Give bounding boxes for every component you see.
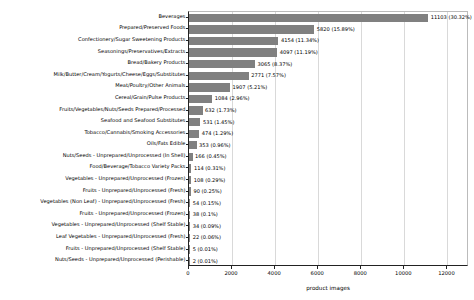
bar-row: 1084 (2.96%)	[189, 93, 250, 105]
x-tick-label: 4000	[268, 270, 281, 276]
x-tick-label: 6000	[311, 270, 324, 276]
bar	[189, 118, 200, 126]
category-label: Vegetables (Non Leaf) - Unprepared/Unpro…	[2, 199, 188, 204]
category-label: Vegetables - Unprepared/Unprocessed (She…	[2, 222, 188, 227]
bar-row: 474 (1.29%)	[189, 128, 233, 140]
bar	[189, 234, 190, 242]
x-tick-mark	[403, 266, 404, 269]
bar-value-label: 54 (0.15%)	[193, 201, 221, 206]
category-label: Tobacco/Cannabis/Smoking Accessories	[2, 130, 188, 135]
bar-row: 90 (0.25%)	[189, 186, 222, 198]
bar-value-label: 474 (1.29%)	[202, 131, 234, 136]
x-axis-ticks: 020004000600080001000012000	[188, 266, 468, 280]
x-tick-mark	[317, 266, 318, 269]
bar-row: 4097 (11.19%)	[189, 47, 318, 59]
bar-value-label: 353 (0.96%)	[199, 143, 231, 148]
bar-row: 531 (1.45%)	[189, 116, 234, 128]
category-label: Cereal/Grain/Pulse Products	[2, 95, 188, 100]
category-label: Fruits - Unprepared/Unprocessed (Frozen)	[2, 211, 188, 216]
category-label: Confectionery/Sugar Sweetening Products	[2, 37, 188, 42]
bar-row: 4154 (11.34%)	[189, 35, 319, 47]
plot-area: 11103 (30.32%)5820 (15.89%)4154 (11.34%)…	[188, 11, 468, 266]
bar	[189, 153, 193, 161]
bar	[189, 25, 314, 33]
bar	[189, 199, 190, 207]
bar-value-label: 108 (0.29%)	[194, 178, 226, 183]
bar	[189, 222, 190, 230]
bar-row: 54 (0.15%)	[189, 197, 221, 209]
bar-value-label: 2 (0.01%)	[193, 259, 218, 264]
bar-value-label: 11103 (30.32%)	[431, 15, 472, 20]
bar-value-label: 2771 (7.57%)	[251, 73, 286, 78]
category-label: Prepared/Preserved Foods	[2, 25, 188, 30]
bar-value-label: 4097 (11.19%)	[280, 50, 318, 55]
bar-value-label: 4154 (11.34%)	[281, 38, 319, 43]
bar-value-label: 632 (1.73%)	[205, 108, 237, 113]
category-label: Meat/Poultry/Other Animals	[2, 83, 188, 88]
bar-row: 353 (0.96%)	[189, 139, 231, 151]
bar-row: 1907 (5.21%)	[189, 81, 267, 93]
category-label: Milk/Butter/Cream/Yogurts/Cheese/Eggs/Su…	[2, 72, 188, 77]
category-label: Nuts/Seeds - Unprepared/Unprocessed (In …	[2, 153, 188, 158]
x-tick-mark	[446, 266, 447, 269]
bar-row: 2771 (7.57%)	[189, 70, 286, 82]
bar	[189, 130, 199, 138]
bar-value-label: 531 (1.45%)	[203, 120, 235, 125]
bar	[189, 187, 191, 195]
bar-value-label: 114 (0.31%)	[194, 166, 226, 171]
category-label: Oils/Fats Edible	[2, 141, 188, 146]
bar-value-label: 1907 (5.21%)	[233, 85, 268, 90]
category-label: Seafood and Seafood Substitutes	[2, 118, 188, 123]
bar-row: 38 (0.1%)	[189, 209, 218, 221]
bar	[189, 95, 212, 103]
category-label: Seasonings/Preservatives/Extracts	[2, 49, 188, 54]
bar-row: 5820 (15.89%)	[189, 23, 355, 35]
x-tick-mark	[231, 266, 232, 269]
x-tick-label: 0	[186, 270, 189, 276]
category-label: Fruits - Unprepared/Unprocessed (Fresh)	[2, 188, 188, 193]
category-label: Bread/Bakery Products	[2, 60, 188, 65]
bar	[189, 14, 428, 22]
bar-row: 108 (0.29%)	[189, 174, 225, 186]
bar	[189, 176, 191, 184]
bar	[189, 257, 190, 265]
bar-value-label: 1084 (2.96%)	[215, 96, 250, 101]
bar-value-label: 5 (0.01%)	[193, 247, 218, 252]
bar	[189, 37, 278, 45]
bar-value-label: 90 (0.25%)	[193, 189, 221, 194]
category-label: Fruits - Unprepared/Unprocessed (Shelf S…	[2, 246, 188, 251]
bar	[189, 141, 197, 149]
category-label: Fruits/Vegetables/Nuts/Seeds Prepared/Pr…	[2, 107, 188, 112]
bar-value-label: 3065 (8.37%)	[258, 62, 293, 67]
bar	[189, 106, 203, 114]
x-tick-label: 12000	[438, 270, 455, 276]
bar-row: 3065 (8.37%)	[189, 58, 292, 70]
x-tick-mark	[360, 266, 361, 269]
bar-value-label: 22 (0.06%)	[193, 235, 221, 240]
bar-row: 166 (0.45%)	[189, 151, 227, 163]
bar	[189, 164, 191, 172]
bar	[189, 72, 249, 80]
bar-value-label: 38 (0.1%)	[193, 212, 218, 217]
bar-value-label: 5820 (15.89%)	[317, 27, 355, 32]
bar	[189, 245, 190, 253]
bar-value-label: 166 (0.45%)	[195, 154, 227, 159]
bar-chart: product families BeveragesPrepared/Prese…	[0, 0, 474, 300]
bar	[189, 48, 277, 56]
bar-row: 34 (0.09%)	[189, 221, 221, 233]
x-axis-title: product images	[188, 285, 468, 291]
category-label: Food/Beverage/Tobacco Variety Packs	[2, 164, 188, 169]
bar-series: 11103 (30.32%)5820 (15.89%)4154 (11.34%)…	[189, 12, 467, 265]
bar-row: 114 (0.31%)	[189, 163, 225, 175]
category-label: Nuts/Seeds - Unprepared/Unprocessed (Per…	[2, 257, 188, 262]
category-label: Beverages	[2, 14, 188, 19]
bar	[189, 83, 230, 91]
category-label: Vegetables - Unprepared/Unprocessed (Fro…	[2, 176, 188, 181]
y-axis-category-labels: BeveragesPrepared/Preserved FoodsConfect…	[0, 11, 188, 266]
x-tick-mark	[188, 266, 189, 269]
x-tick-mark	[274, 266, 275, 269]
x-tick-label: 8000	[354, 270, 367, 276]
bar-row: 5 (0.01%)	[189, 244, 218, 256]
bar	[189, 60, 255, 68]
x-tick-label: 2000	[224, 270, 237, 276]
